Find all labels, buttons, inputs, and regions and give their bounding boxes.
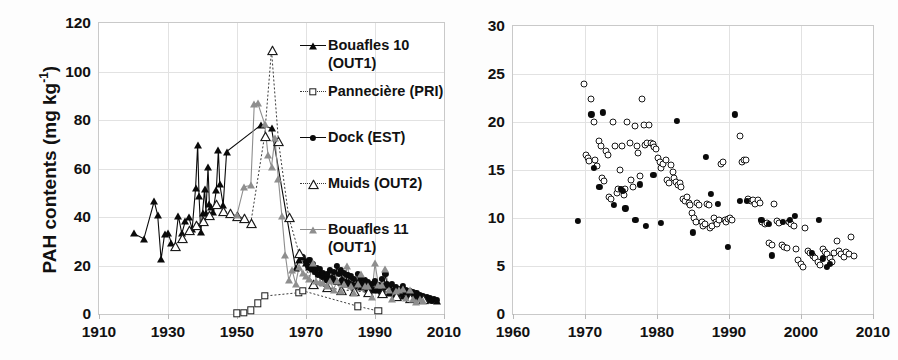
data-point: [687, 201, 694, 208]
x-axis-tick-label: 1910: [69, 323, 129, 341]
data-point: [406, 287, 414, 294]
data-point: [705, 201, 712, 208]
legend-item[interactable]: Pannecière (PRI): [300, 82, 450, 128]
data-point: [596, 184, 602, 190]
data-point: [690, 229, 696, 235]
data-point: [590, 119, 597, 126]
data-point: [636, 172, 643, 179]
data-point: [264, 152, 272, 159]
data-point: [769, 241, 776, 248]
data-point: [834, 238, 841, 245]
data-point: [624, 119, 631, 126]
data-point: [246, 219, 256, 228]
x-axis-tick-label: 2010: [843, 323, 898, 341]
data-point: [771, 200, 778, 207]
data-point: [638, 95, 645, 102]
data-point: [254, 300, 261, 307]
data-point: [708, 191, 714, 197]
data-point: [658, 220, 664, 226]
legend-marker: [310, 135, 316, 141]
data-point: [743, 157, 750, 164]
data-point: [223, 148, 231, 155]
panel-a: PAH contents (mg kg-1) A 020406080100120…: [0, 0, 452, 360]
data-point: [820, 255, 826, 261]
x-axis-tick-label: 1990: [345, 323, 405, 341]
x-axis-tickmark: [513, 314, 514, 319]
data-point: [268, 163, 276, 170]
data-point: [201, 186, 209, 193]
data-point: [622, 205, 628, 211]
data-point: [278, 212, 286, 219]
data-point: [150, 198, 158, 205]
data-point: [368, 294, 376, 301]
data-point: [204, 164, 212, 171]
data-point: [204, 210, 214, 219]
plot-area-panel-b: 051015202530196019701980199020002010: [512, 25, 874, 315]
data-point: [848, 234, 855, 241]
data-point: [154, 212, 162, 219]
data-point: [678, 184, 685, 191]
y-axis-tick-label: 20: [51, 257, 91, 275]
data-point: [381, 266, 389, 273]
data-point: [354, 303, 361, 310]
legend-item[interactable]: Dock (EST): [300, 128, 450, 174]
legend-marker-triangle-filled-gray-icon: [300, 221, 326, 239]
data-point: [274, 176, 282, 183]
data-point: [299, 287, 306, 294]
data-point: [629, 184, 636, 191]
data-point: [816, 217, 822, 223]
data-point: [643, 223, 649, 229]
data-point: [619, 143, 626, 150]
y-axis-label-exponent: -1: [37, 72, 51, 83]
legend-marker-triangle-filled-black-icon: [300, 37, 326, 55]
x-axis-tickmark: [444, 314, 445, 319]
data-point: [783, 244, 790, 251]
data-point: [632, 217, 638, 223]
legend-marker: [309, 88, 316, 95]
legend-label: Pannecière (PRI): [328, 82, 443, 100]
legend-marker: [309, 43, 317, 50]
data-point: [720, 159, 727, 166]
data-point: [611, 201, 617, 207]
data-point: [650, 172, 656, 178]
legend-item[interactable]: Bouafles 10 (OUT1): [300, 36, 450, 82]
data-point: [575, 218, 581, 224]
data-point: [212, 187, 220, 194]
data-point: [261, 292, 268, 299]
data-point: [816, 262, 823, 269]
data-point: [600, 177, 607, 184]
data-point: [388, 295, 396, 302]
y-axis-tick-label: 80: [51, 111, 91, 129]
gridline-vertical: [585, 26, 586, 314]
legend-panel-a: Bouafles 10 (OUT1)Pannecière (PRI)Dock (…: [300, 36, 450, 266]
x-axis-tickmark: [168, 314, 169, 319]
legend-marker-triangle-open-icon: [300, 175, 326, 193]
data-point: [247, 182, 255, 189]
legend-label: Muids (OUT2): [328, 174, 422, 192]
data-point: [254, 100, 262, 107]
data-point: [612, 143, 619, 150]
x-axis-tick-label: 2000: [771, 323, 831, 341]
y-axis-tick-label: 25: [465, 65, 505, 83]
y-axis-tick-label: 0: [51, 305, 91, 323]
data-point: [185, 213, 193, 220]
data-point: [271, 135, 279, 142]
data-point: [214, 147, 222, 154]
x-axis-tickmark: [99, 314, 100, 319]
data-point: [375, 307, 382, 314]
data-point: [195, 193, 203, 200]
data-point: [364, 283, 372, 290]
data-point: [732, 111, 738, 117]
data-point: [790, 222, 797, 229]
y-axis-tick-label: 15: [465, 161, 505, 179]
gridline-vertical: [729, 26, 730, 314]
legend-marker: [308, 180, 318, 189]
legend-label: Bouafles 11 (OUT1): [328, 220, 450, 256]
legend-item[interactable]: Muids (OUT2): [300, 174, 450, 220]
data-point: [337, 287, 345, 294]
x-axis-tick-label: 1960: [483, 323, 543, 341]
data-point: [247, 306, 254, 313]
y-axis-tick-label: 100: [51, 63, 91, 81]
legend-item[interactable]: Bouafles 11 (OUT1): [300, 220, 450, 266]
gridline-horizontal: [513, 122, 873, 123]
